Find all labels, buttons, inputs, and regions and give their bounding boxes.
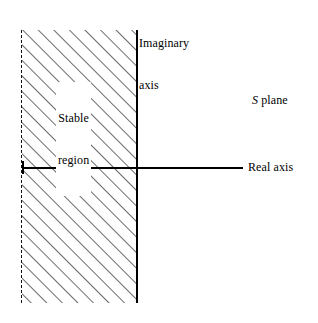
real-axis-origin-tick: [22, 161, 24, 174]
real-axis-label: Real axis: [248, 160, 293, 174]
imaginary-axis-label-line1: Imaginary: [139, 36, 189, 50]
s-plane-text: plane: [258, 93, 288, 107]
s-plane-diagram: Imaginary axis Stable region S plane Rea…: [0, 0, 318, 323]
stable-region-label-line1: Stable: [58, 111, 89, 125]
s-plane-label: S plane: [252, 93, 288, 107]
stable-region-label: Stable region: [56, 82, 91, 196]
imaginary-axis-label: Imaginary axis: [139, 8, 189, 120]
stable-region-label-line2: region: [58, 153, 89, 167]
imaginary-axis-label-line2: axis: [139, 78, 189, 92]
